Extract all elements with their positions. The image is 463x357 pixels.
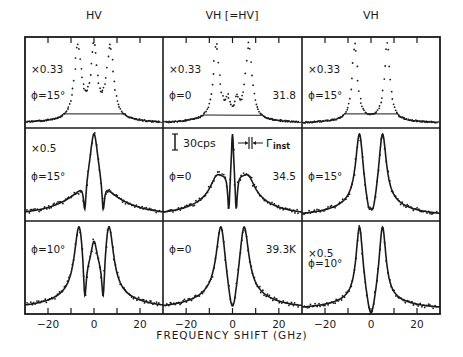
data-point xyxy=(102,207,104,209)
data-point xyxy=(328,120,330,122)
data-point xyxy=(251,177,253,179)
data-point xyxy=(231,142,233,144)
data-point xyxy=(192,298,194,300)
data-point xyxy=(222,95,224,97)
data-point xyxy=(429,304,431,306)
baseline-trace xyxy=(25,114,162,123)
data-point xyxy=(393,103,395,105)
data-point xyxy=(230,104,232,106)
data-point xyxy=(96,144,98,146)
data-point xyxy=(221,173,223,175)
data-point xyxy=(69,274,71,276)
data-point xyxy=(206,108,208,110)
data-point xyxy=(296,120,298,122)
data-point xyxy=(374,291,376,293)
data-point xyxy=(127,115,129,117)
data-point xyxy=(129,203,131,205)
data-point xyxy=(352,280,354,282)
data-point xyxy=(218,232,220,234)
data-point xyxy=(49,298,51,300)
data-point xyxy=(395,295,397,297)
data-point xyxy=(308,210,310,212)
data-point xyxy=(70,197,72,199)
data-point xyxy=(41,300,43,302)
data-point xyxy=(279,208,281,210)
data-point xyxy=(350,89,352,91)
data-point xyxy=(139,207,141,209)
data-point xyxy=(115,264,117,266)
data-point xyxy=(234,297,236,299)
phi-label: ϕ=15° xyxy=(31,170,65,182)
data-point xyxy=(69,103,71,105)
data-point xyxy=(72,88,74,90)
data-point xyxy=(417,120,419,122)
data-point xyxy=(433,212,435,214)
data-point xyxy=(46,302,48,304)
data-point xyxy=(219,174,221,176)
data-point xyxy=(37,208,39,210)
data-point xyxy=(168,210,170,212)
data-point xyxy=(262,289,264,291)
data-point xyxy=(403,300,405,302)
data-point xyxy=(248,175,250,177)
data-point xyxy=(263,294,265,296)
data-point xyxy=(348,103,350,105)
data-point xyxy=(84,203,86,205)
data-point xyxy=(379,249,381,251)
data-point xyxy=(79,232,81,234)
data-point xyxy=(131,205,133,207)
data-point xyxy=(217,62,219,64)
data-point xyxy=(339,202,341,204)
data-point xyxy=(436,121,438,123)
data-point xyxy=(33,209,35,211)
data-point xyxy=(75,68,77,70)
data-point xyxy=(243,172,245,174)
phi-label: ϕ=15° xyxy=(308,170,342,182)
data-point xyxy=(410,206,412,208)
data-point xyxy=(362,108,364,110)
data-point xyxy=(369,206,371,208)
data-point xyxy=(215,257,217,259)
data-point xyxy=(86,184,88,186)
data-point xyxy=(241,98,243,100)
data-point xyxy=(114,89,116,91)
data-point xyxy=(381,97,383,99)
data-point xyxy=(255,186,257,188)
data-point xyxy=(98,169,100,171)
data-point xyxy=(363,109,365,111)
data-point xyxy=(75,193,77,195)
data-point xyxy=(62,203,64,205)
data-point xyxy=(105,193,107,195)
data-point xyxy=(164,211,166,213)
data-point xyxy=(334,302,336,304)
data-point xyxy=(331,205,333,207)
data-point xyxy=(246,173,248,175)
data-point xyxy=(242,231,244,233)
data-point xyxy=(355,257,357,259)
data-point xyxy=(133,298,135,300)
data-point xyxy=(351,183,353,185)
data-point xyxy=(78,193,80,195)
data-point xyxy=(197,295,199,297)
scale-factor-label: ×0.33 xyxy=(31,63,63,75)
data-point xyxy=(134,206,136,208)
data-point xyxy=(76,192,78,194)
data-point xyxy=(237,96,239,98)
data-point xyxy=(223,174,225,176)
data-point xyxy=(436,306,438,308)
data-point xyxy=(38,211,40,213)
data-point xyxy=(216,43,218,45)
data-point xyxy=(414,303,416,305)
data-point xyxy=(377,109,379,111)
data-point xyxy=(159,210,161,212)
data-point xyxy=(180,302,182,304)
data-point xyxy=(107,191,109,193)
data-point xyxy=(256,285,258,287)
data-point xyxy=(255,283,257,285)
data-point xyxy=(207,191,209,193)
data-point xyxy=(127,203,129,205)
data-point xyxy=(308,306,310,308)
data-point xyxy=(254,184,256,186)
data-point xyxy=(270,204,272,206)
data-point xyxy=(326,208,328,210)
